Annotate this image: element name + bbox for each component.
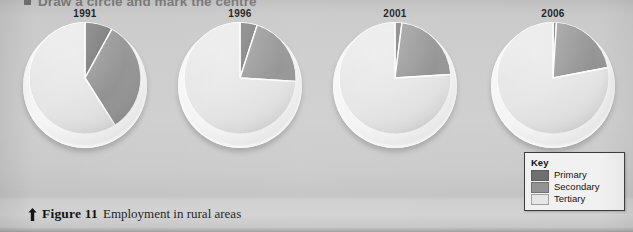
caption-figure-number: Figure 11 (42, 206, 98, 222)
page-bottom-edge (0, 227, 633, 232)
pie-face-shading (497, 22, 609, 134)
pie-disc (491, 22, 615, 150)
key-swatch-primary (531, 170, 549, 181)
key-entry: Tertiary (531, 193, 619, 205)
pie-face-shading (339, 22, 451, 134)
key-swatch-tertiary (531, 194, 549, 205)
key-label: Tertiary (554, 193, 585, 205)
pie-chart-1991: 1991 (10, 8, 160, 160)
key-legend-box: Key PrimarySecondaryTertiary (524, 152, 625, 211)
key-entries: PrimarySecondaryTertiary (531, 169, 619, 205)
caption-description: Employment in rural areas (103, 206, 241, 222)
pie-chart-2006: 2006 (478, 8, 628, 160)
key-label: Secondary (554, 181, 599, 193)
figure-panel: Draw a circle and mark the centre 199119… (0, 0, 633, 232)
pie-disc (178, 22, 302, 150)
pie-face (184, 22, 296, 134)
key-label: Primary (554, 169, 587, 181)
up-arrow-icon (28, 208, 37, 221)
key-entry: Secondary (531, 181, 619, 193)
pie-chart-year-label: 2001 (320, 8, 470, 19)
figure-caption: Figure 11 Employment in rural areas (28, 206, 241, 222)
pie-face-shading (29, 22, 141, 134)
key-title: Key (531, 157, 619, 168)
key-entry: Primary (531, 169, 619, 181)
pie-disc (23, 22, 147, 150)
pie-face-shading (184, 22, 296, 134)
pie-chart-year-label: 1996 (165, 8, 315, 19)
pie-disc (333, 22, 457, 150)
pie-chart-1996: 1996 (165, 8, 315, 160)
pie-face (29, 22, 141, 134)
square-bullet-icon (24, 0, 31, 5)
pie-charts-strip: 1991199620012006 (0, 8, 633, 160)
pie-face (339, 22, 451, 134)
pie-chart-year-label: 2006 (478, 8, 628, 19)
pie-chart-year-label: 1991 (10, 8, 160, 19)
pie-chart-2001: 2001 (320, 8, 470, 160)
pie-face (497, 22, 609, 134)
key-swatch-secondary (531, 182, 549, 193)
